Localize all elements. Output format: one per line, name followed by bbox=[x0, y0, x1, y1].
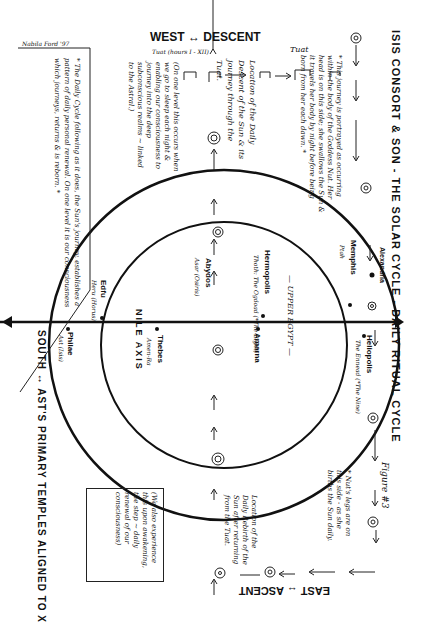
place-memphis-deity: Ptah bbox=[337, 245, 348, 259]
place-philae-deity: Ast (Isis) bbox=[56, 335, 67, 362]
place-alexandria: Alexandria bbox=[379, 247, 386, 283]
place-edfu: Edfu bbox=[99, 280, 108, 298]
place-memphis: Memphis bbox=[349, 240, 358, 275]
compass-west: WEST ↔ DESCENT bbox=[150, 30, 261, 44]
place-abydos: Abydos bbox=[204, 258, 213, 287]
place-philae: Philae bbox=[66, 332, 75, 356]
note-nut-birth: * Nut's legs are on this side - as she b… bbox=[325, 470, 352, 550]
note-daily-cycle: * The Daily Cycle following as it does, … bbox=[52, 58, 82, 308]
place-thebes-deity: Amen-Ra bbox=[144, 338, 155, 366]
note-nut-journey: * This journey is portrayed as occurring… bbox=[298, 55, 343, 215]
place-abydos-deity: Asar (Osiris) bbox=[192, 258, 203, 296]
compass-south: SOUTH ↔ AST'S PRIMARY TEMPLES ALIGNED TO… bbox=[36, 330, 47, 623]
tuat-hours-label: Tuat (hours I - XII) bbox=[152, 46, 209, 57]
compass-east: EAST ↔ ASCENT bbox=[239, 585, 330, 597]
note-sleep-level: (On one level this occurs when we go to … bbox=[126, 62, 180, 177]
axis-arrow-south bbox=[2, 316, 12, 328]
place-thebes: Thebes bbox=[156, 335, 165, 363]
place-amarna: Amarna bbox=[253, 333, 262, 363]
figure-label: Figure #3 bbox=[379, 462, 390, 508]
note-daily-descent: Location of the Daily Descent of the Sun… bbox=[214, 60, 258, 160]
place-heliopolis-deity: The Ennead (*The Nine) bbox=[353, 340, 364, 414]
note-daily-rebirth: Location of the Daily Rebirth of the Sun… bbox=[222, 495, 258, 565]
tuat-label: Tuat bbox=[290, 44, 308, 55]
signature: Nabila Ford '97 bbox=[22, 38, 69, 49]
upper-egypt-label: — UPPER EGYPT — bbox=[285, 275, 296, 356]
note-awakening: (We also experience this upon awakening,… bbox=[113, 492, 158, 578]
nile-axis-label: NILE AXIS bbox=[134, 309, 144, 371]
place-edfu-deity: Heru (Horus) bbox=[89, 280, 100, 321]
diagram-title: ISIS CONSORT & SON - THE SOLAR CYCLE - D… bbox=[390, 30, 402, 443]
place-dots bbox=[66, 273, 375, 339]
place-hermopolis: Hermopolis bbox=[263, 250, 272, 294]
place-heliopolis: Heliopolis bbox=[365, 335, 374, 373]
